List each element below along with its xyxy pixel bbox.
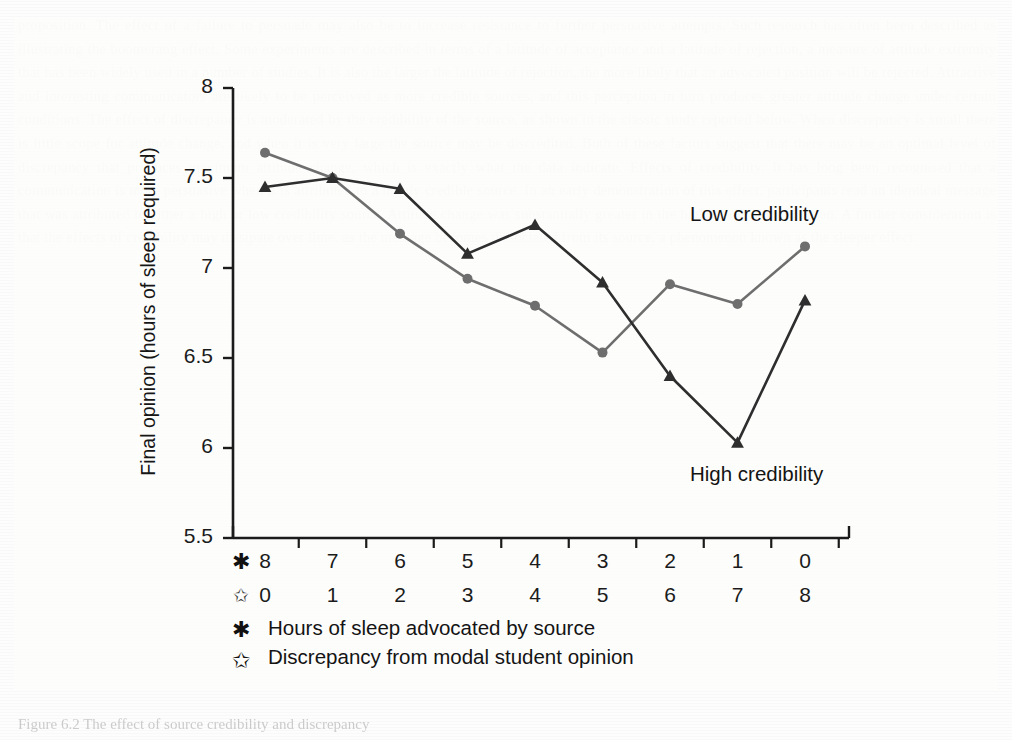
legend-asterisk-icon: ✱ (228, 617, 254, 643)
x-axis-tick-label-hours-advocated: 4 (515, 549, 555, 573)
x-axis-tick-label-discrepancy: 0 (245, 583, 285, 607)
x-axis-tick-label-hours-advocated: 3 (583, 549, 623, 573)
legend-star-outline-icon: ✩ (228, 648, 254, 674)
x-axis-tick-label-discrepancy: 1 (313, 583, 353, 607)
x-axis-tick-label-discrepancy: 5 (583, 583, 623, 607)
figure-caption: Figure 6.2 The effect of source credibil… (18, 716, 918, 738)
x-axis-tick-label-discrepancy: 3 (448, 583, 488, 607)
x-axis-label-rows: ✱876543210✩012345678✱Hours of sleep advo… (0, 0, 1012, 740)
x-axis-tick-label-hours-advocated: 8 (245, 549, 285, 573)
x-axis-tick-label-discrepancy: 4 (515, 583, 555, 607)
x-axis-tick-label-hours-advocated: 6 (380, 549, 420, 573)
x-axis-tick-label-hours-advocated: 7 (313, 549, 353, 573)
x-axis-tick-label-discrepancy: 8 (785, 583, 825, 607)
legend-label: Discrepancy from modal student opinion (268, 645, 634, 669)
x-axis-tick-label-discrepancy: 6 (650, 583, 690, 607)
x-axis-tick-label-hours-advocated: 2 (650, 549, 690, 573)
x-axis-tick-label-discrepancy: 7 (718, 583, 758, 607)
x-axis-tick-label-hours-advocated: 5 (448, 549, 488, 573)
x-axis-tick-label-hours-advocated: 1 (718, 549, 758, 573)
x-axis-tick-label-discrepancy: 2 (380, 583, 420, 607)
x-axis-tick-label-hours-advocated: 0 (785, 549, 825, 573)
legend-label: Hours of sleep advocated by source (268, 616, 595, 640)
